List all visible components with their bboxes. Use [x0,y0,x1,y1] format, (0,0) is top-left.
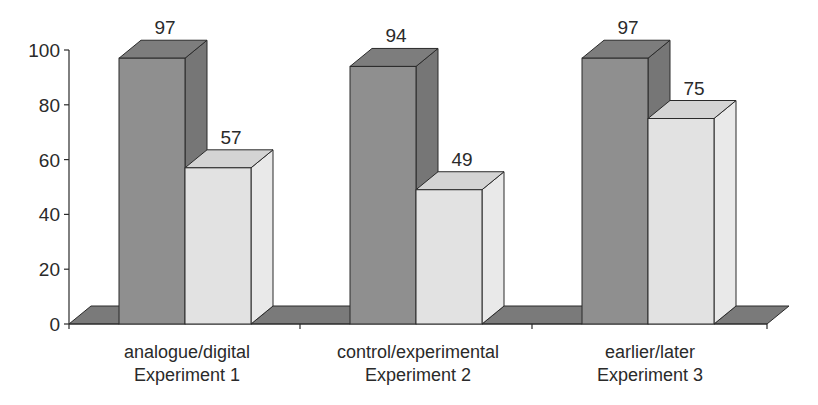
bar-front [185,168,251,324]
data-label: 57 [220,127,241,148]
data-label: 94 [385,25,407,46]
bar: 57 [185,127,273,324]
data-label: 97 [154,17,175,38]
category-label-line1: control/experimental [337,342,499,362]
bar: 75 [648,78,736,325]
data-label: 49 [451,149,472,170]
bar-front [119,58,185,324]
data-label: 97 [617,17,638,38]
category-label-line2: Experiment 2 [365,365,471,385]
y-tick-label: 100 [28,40,60,61]
bar-front [648,119,714,325]
bar-groups: 975794499775 [119,17,736,324]
y-tick-label: 80 [39,95,60,116]
y-tick-label: 40 [39,204,60,225]
y-tick-label: 60 [39,150,60,171]
bar-side [714,101,736,325]
category-label-line2: Experiment 3 [597,365,703,385]
bar-front [350,66,416,324]
bar-side [251,150,273,324]
bar-chart: 020406080100 975794499775 analogue/digit… [0,0,818,405]
category-label-line1: analogue/digital [124,342,250,362]
category-labels: analogue/digitalExperiment 1control/expe… [124,342,703,385]
bar-group: 9775 [582,17,736,324]
bar-group: 9757 [119,17,273,324]
bar-front [416,190,482,324]
y-tick-label: 0 [49,314,60,335]
data-label: 75 [683,78,704,99]
bar-group: 9449 [350,25,504,324]
bar-side [482,172,504,324]
y-tick-label: 20 [39,259,60,280]
bar-front [582,58,648,324]
category-label-line2: Experiment 1 [134,365,240,385]
category-label-line1: earlier/later [605,342,695,362]
